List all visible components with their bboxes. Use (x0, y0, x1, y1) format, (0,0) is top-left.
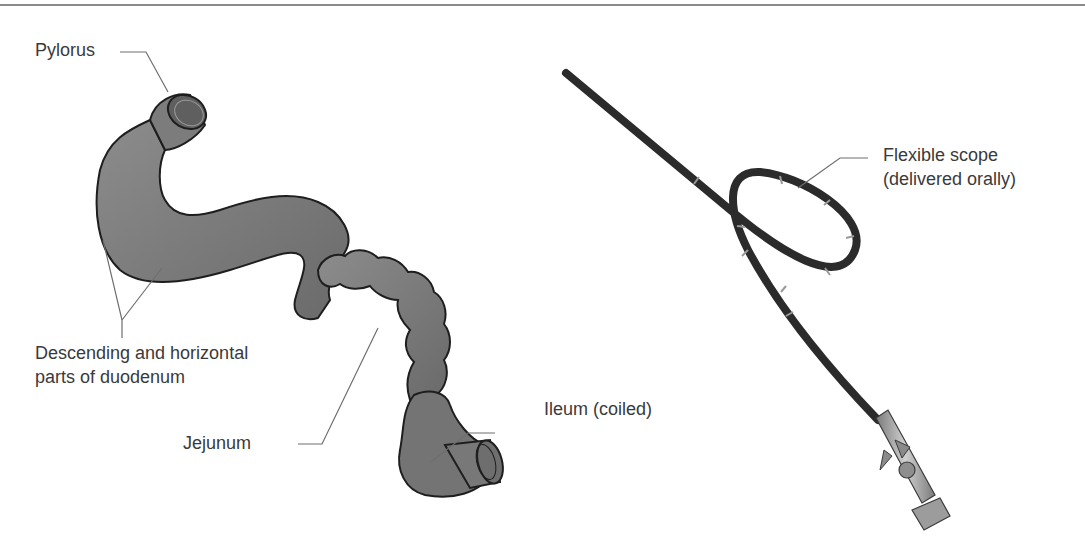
label-duodenum-line2: parts of duodenum (35, 366, 185, 388)
label-ileum: Ileum (coiled) (544, 398, 652, 420)
small-intestine-endoscopy-diagram (0, 0, 1085, 552)
label-scope-line1: Flexible scope (883, 144, 998, 166)
jejunum-shape (318, 250, 450, 400)
small-intestine-illustration (97, 52, 508, 497)
pylorus-shape (150, 88, 212, 150)
scope-shaft (566, 73, 878, 420)
duodenum-shape (97, 120, 349, 319)
label-pylorus: Pylorus (35, 39, 95, 61)
label-jejunum: Jejunum (183, 432, 251, 454)
label-scope-line2: (delivered orally) (883, 168, 1016, 190)
jejunum-leader-line (298, 328, 378, 444)
label-duodenum-line1: Descending and horizontal (35, 342, 248, 364)
scope-handle (876, 410, 950, 530)
pylorus-leader-line (120, 52, 168, 92)
flexible-scope-illustration (566, 73, 950, 530)
